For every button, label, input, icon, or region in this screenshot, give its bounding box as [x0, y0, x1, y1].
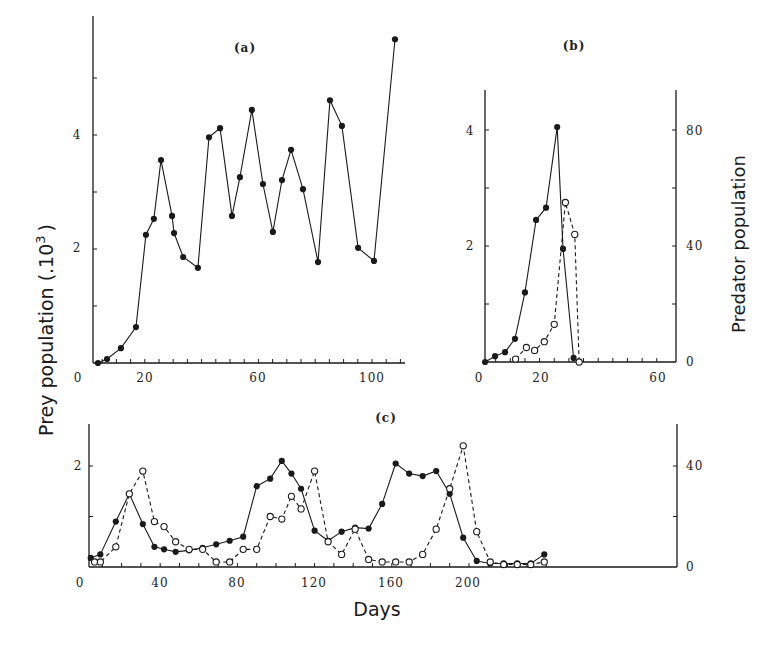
prey-data-point — [227, 538, 233, 544]
prey-data-point — [217, 125, 223, 131]
prey-data-point — [420, 473, 426, 479]
prey-data-point — [161, 546, 167, 552]
prey-data-point — [173, 549, 179, 555]
panel-c-xtick-0: 0 — [76, 576, 85, 590]
prey-data-point — [327, 97, 333, 103]
prey-data-point — [143, 232, 149, 238]
panel-b-ytick-right-80: 80 — [686, 124, 703, 138]
prey-data-point — [240, 534, 246, 540]
prey-data-point — [288, 147, 294, 153]
prey-data-point — [104, 356, 110, 362]
panel-c-xtick-80: 80 — [228, 576, 245, 590]
prey-data-point — [366, 526, 372, 532]
y-axis-title-prey: Prey population (.103) — [33, 224, 57, 436]
prey-data-point — [379, 501, 385, 507]
prey-data-point — [298, 486, 304, 492]
predator-data-point — [379, 559, 385, 565]
predator-data-point — [97, 559, 103, 565]
prey-data-point — [151, 544, 157, 550]
panel-a-plot — [95, 36, 398, 366]
y-axis-title-prey-sup: 3 — [33, 235, 48, 243]
predator-data-point — [113, 544, 119, 550]
prey-data-point — [339, 123, 345, 129]
prey-data-point — [237, 174, 243, 180]
prey-data-point — [213, 541, 219, 547]
panel-b-ytick-right-40: 40 — [686, 239, 703, 253]
predator-data-point — [173, 539, 179, 545]
panel-c-label: (c) — [375, 411, 397, 425]
panel-b-xtick-60: 60 — [649, 371, 666, 385]
prey-series-line — [98, 39, 395, 363]
prey-data-point — [543, 205, 549, 211]
predator-data-point — [140, 468, 146, 474]
prey-series-line — [91, 461, 545, 564]
predator-data-point — [572, 231, 578, 237]
predator-data-point — [447, 486, 453, 492]
prey-data-point — [133, 324, 139, 330]
prey-data-point — [270, 229, 276, 235]
prey-data-point — [288, 470, 294, 476]
panel-c-ytick-2: 2 — [74, 459, 83, 473]
prey-data-point — [171, 230, 177, 236]
predator-data-point — [279, 516, 285, 522]
y-axis-title-predator: Predator population — [728, 155, 749, 333]
prey-data-point — [492, 353, 498, 359]
predator-data-point — [288, 493, 294, 499]
predator-data-point — [186, 546, 192, 552]
prey-data-point — [406, 470, 412, 476]
predator-data-point — [227, 559, 233, 565]
panel-a-ytick-4: 4 — [73, 128, 82, 142]
panel-c-xtick-40: 40 — [151, 576, 168, 590]
prey-data-point — [260, 181, 266, 187]
panel-b-ytick-right-0: 0 — [686, 355, 695, 369]
panel-a: (a) 0 20 60 100 2 4 — [73, 16, 405, 385]
panel-c: (c) 0 40 80 120 160 200 2 0 40 — [74, 411, 704, 590]
predator-data-point — [433, 526, 439, 532]
panel-c-ytick-right-40: 40 — [686, 459, 703, 473]
predator-data-point — [420, 551, 426, 557]
prey-data-point — [229, 213, 235, 219]
prey-data-point — [570, 355, 576, 361]
prey-data-point — [554, 124, 560, 130]
prey-data-point — [433, 468, 439, 474]
panel-a-ytick-2: 2 — [73, 241, 82, 255]
y-axis-title-prey-text: Prey population (.10 — [35, 244, 57, 436]
predator-data-point — [126, 491, 132, 497]
panel-a-xtick-100: 100 — [359, 371, 385, 385]
prey-data-point — [140, 521, 146, 527]
prey-data-point — [279, 177, 285, 183]
prey-data-point — [169, 213, 175, 219]
panel-b-plot — [482, 124, 582, 365]
prey-data-point — [249, 107, 255, 113]
prey-data-point — [315, 259, 321, 265]
predator-data-point — [312, 468, 318, 474]
predator-data-point — [406, 559, 412, 565]
panel-c-ytick-right-0: 0 — [686, 560, 695, 574]
figure: (a) 0 20 60 100 2 4 (b) 0 20 60 2 4 0 40… — [0, 0, 773, 656]
predator-data-point — [352, 526, 358, 532]
predator-data-point — [562, 199, 568, 205]
prey-data-point — [180, 254, 186, 260]
y-axis-title-prey-close: ) — [35, 224, 57, 231]
predator-data-point — [532, 347, 538, 353]
prey-data-point — [267, 476, 273, 482]
predator-data-point — [514, 561, 520, 567]
prey-data-point — [482, 359, 488, 365]
predator-data-point — [161, 524, 167, 530]
predator-data-point — [474, 529, 480, 535]
panel-c-axes — [89, 424, 677, 567]
prey-data-point — [300, 186, 306, 192]
prey-data-point — [254, 483, 260, 489]
predator-data-point — [576, 359, 582, 365]
prey-data-point — [392, 36, 398, 42]
panel-a-axes — [93, 16, 405, 363]
prey-data-point — [474, 558, 480, 564]
predator-data-point — [339, 551, 345, 557]
prey-data-point — [339, 529, 345, 535]
prey-data-point — [533, 217, 539, 223]
prey-data-point — [118, 345, 124, 351]
prey-data-point — [95, 360, 101, 366]
predator-data-point — [460, 443, 466, 449]
predator-data-point — [523, 344, 529, 350]
predator-data-point — [267, 513, 273, 519]
